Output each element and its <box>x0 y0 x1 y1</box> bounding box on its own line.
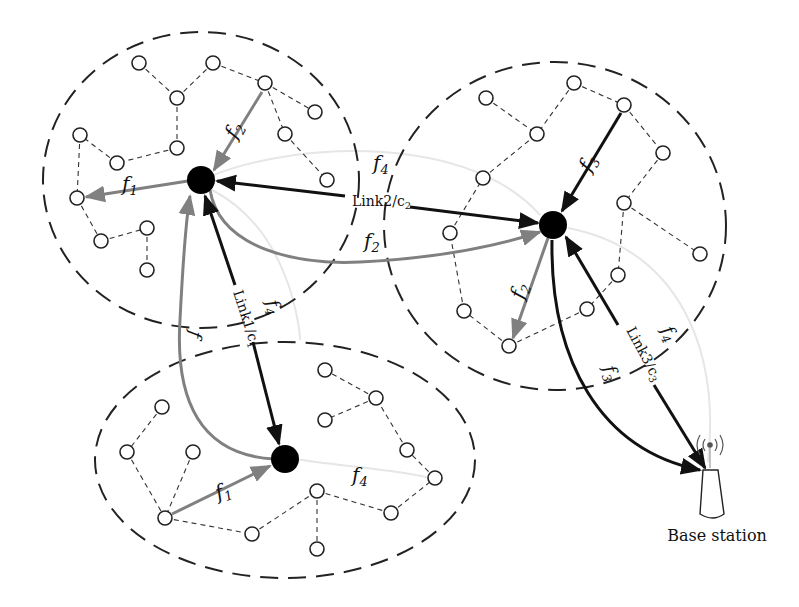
sensor-node <box>94 234 108 248</box>
sensor-node <box>158 511 172 525</box>
link-arrows <box>205 113 705 470</box>
sensor-node <box>611 268 625 282</box>
sensor-node <box>278 127 292 141</box>
sensor-node <box>110 156 124 170</box>
sensor-node <box>170 91 184 105</box>
sensor-node <box>170 141 184 155</box>
sensor-node <box>400 443 414 457</box>
sensor-node <box>186 445 200 459</box>
label-f3-right: f3 <box>572 150 603 178</box>
sensor-node <box>140 263 154 277</box>
sensor-node <box>258 76 272 90</box>
link1-arrow-up <box>205 196 235 285</box>
cluster-head-top-left <box>187 166 215 194</box>
sensor-node <box>443 226 457 240</box>
sensor-node <box>310 542 324 556</box>
f4-path-topleft-down <box>212 190 300 340</box>
label-f4-right: f4 <box>654 320 683 346</box>
label-f1-topleft: f1 <box>120 172 138 198</box>
sensor-node <box>617 98 631 112</box>
sensor-node <box>693 247 707 261</box>
cluster-head-right <box>539 211 567 239</box>
sensor-node <box>245 527 259 541</box>
sensor-node <box>132 56 146 70</box>
sensor-node <box>476 171 490 185</box>
cluster-boundaries <box>43 32 726 578</box>
wsn-cluster-diagram: f1 f2 f4 Link2/c2 f2 f3 f2 Link1/c1 f4 f… <box>0 0 799 607</box>
sensor-node <box>140 221 154 235</box>
sensor-node <box>617 196 631 210</box>
sensor-node <box>428 471 442 485</box>
base-station-label: Base station <box>667 526 767 545</box>
link3-arrow-down <box>654 385 705 468</box>
sensor-node <box>384 506 398 520</box>
sensor-node <box>70 191 84 205</box>
link1-arrow-down <box>253 342 279 444</box>
sensor-node <box>320 173 334 187</box>
label-f2-middle: f2 <box>362 229 380 255</box>
sensor-node <box>530 127 544 141</box>
sensor-node <box>73 128 87 142</box>
gray-flows <box>86 92 548 514</box>
f3-arrow-to-base <box>552 240 700 470</box>
label-f-left: f <box>184 327 207 342</box>
sensor-node <box>308 105 322 119</box>
base-station: Base station <box>667 435 767 545</box>
label-f4-top: f4 <box>371 151 389 177</box>
label-f3-lower: f3 <box>596 360 624 384</box>
sensor-node <box>502 339 516 353</box>
sensor-node <box>318 413 332 427</box>
sensor-node <box>479 91 493 105</box>
sensor-node <box>580 302 594 316</box>
label-f2-right-lower: f2 <box>504 279 534 304</box>
sensor-node <box>567 76 581 90</box>
sensor-node <box>155 400 169 414</box>
sensor-node <box>206 56 220 70</box>
sensor-node <box>120 445 134 459</box>
label-link2: Link2/c2 <box>352 193 411 211</box>
sensor-node <box>310 484 324 498</box>
base-station-tower-icon <box>700 470 724 518</box>
cluster-head-bottom <box>271 445 299 473</box>
sensor-node <box>369 391 383 405</box>
link2-arrow-right <box>410 207 538 223</box>
sensor-node <box>457 304 471 318</box>
sensor-node <box>318 363 332 377</box>
sensor-node <box>656 146 670 160</box>
f-arrow-bottom-to-topleft <box>179 196 274 459</box>
label-f1-bottom: f1 <box>210 477 236 507</box>
